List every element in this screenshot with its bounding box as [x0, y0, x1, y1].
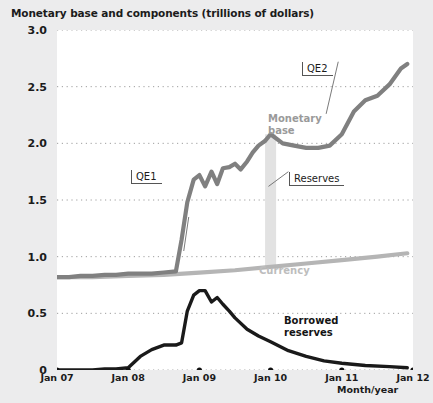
chart-canvas	[57, 30, 413, 370]
y-axis-tick-label: 1.5	[0, 194, 47, 207]
x-axis-tick-label: Jan 07	[40, 372, 73, 383]
series-label-currency: Currency	[259, 265, 310, 277]
y-axis-tick-label: 2.0	[0, 137, 47, 150]
x-axis-tick-dot	[197, 367, 202, 370]
x-axis-title: Month/year	[337, 384, 398, 395]
monetary-base-label-line2: base	[268, 125, 295, 136]
callout-leader-lines	[184, 62, 339, 251]
chart-figure: Monetary base and components (trillions …	[0, 0, 433, 403]
annotation-qe1: QE1	[131, 170, 162, 184]
x-axis-tick-label: Jan 10	[254, 372, 287, 383]
x-axis-tick-label: Jan 09	[183, 372, 216, 383]
y-axis-tick-label: 3.0	[0, 24, 47, 37]
annotation-qe2: QE2	[302, 62, 333, 76]
x-axis-tick-dot	[268, 367, 273, 370]
plot-area	[57, 30, 413, 370]
borrowed-reserves-line	[57, 291, 407, 370]
borrowed-label-line1: Borrowed	[284, 315, 338, 326]
monetary-base-label-line1: Monetary	[268, 113, 322, 124]
series-label-borrowed-reserves: Borrowed reserves	[284, 315, 338, 339]
y-axis-tick-label: 2.5	[0, 80, 47, 93]
y-axis-tick-label: 0.5	[0, 307, 47, 320]
x-axis-tick-label: Jan 11	[325, 372, 358, 383]
y-axis-tick-label: 1.0	[0, 250, 47, 263]
borrowed-label-line2: reserves	[284, 327, 333, 338]
annotation-reserves: Reserves	[289, 172, 344, 186]
x-axis-tick-dot	[57, 367, 60, 370]
x-axis-tick-dot	[410, 367, 413, 370]
reserves-band	[265, 134, 276, 267]
x-axis-tick-dot	[339, 367, 344, 370]
x-axis-tick-label: Jan 12	[396, 372, 429, 383]
series-label-monetary-base: Monetary base	[268, 113, 322, 137]
x-axis-tick-label: Jan 08	[112, 372, 145, 383]
monetary-base-line	[57, 64, 407, 277]
chart-title: Monetary base and components (trillions …	[11, 7, 314, 19]
